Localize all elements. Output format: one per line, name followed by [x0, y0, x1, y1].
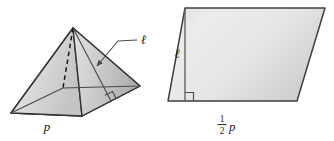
- figure-svg: ℓ p ℓ 1 2 p: [0, 0, 334, 141]
- pyramid-face-left-outline: [11, 28, 82, 116]
- pyramid-group: ℓ p: [11, 28, 147, 134]
- parallelogram-base-label: 1 2 p: [218, 114, 237, 136]
- base-label-variable: p: [228, 119, 236, 134]
- parallelogram-height-label: ℓ: [175, 46, 181, 61]
- parallelogram-group: ℓ 1 2 p: [168, 8, 325, 136]
- pyramid-face-right-outline: [73, 28, 140, 116]
- geometry-figure-canvas: ℓ p ℓ 1 2 p: [0, 0, 334, 141]
- parallelogram-shape: [168, 8, 325, 101]
- pyramid-slant-label: ℓ: [141, 32, 147, 47]
- base-label-denominator: 2: [220, 126, 225, 136]
- pyramid-base-label: p: [43, 119, 51, 134]
- base-label-numerator: 1: [220, 114, 225, 124]
